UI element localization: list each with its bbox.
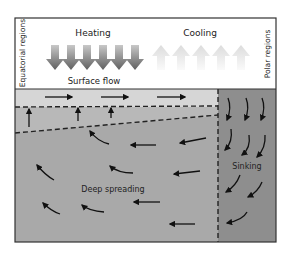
surface-band [15, 89, 218, 107]
sinking-label: Sinking [232, 162, 261, 171]
equatorial-regions-label: Equatorial regions [18, 19, 27, 87]
heating-label: Heating [75, 28, 110, 38]
ocean-circulation-diagram: Heating Cooling Surface flow Deep spread… [0, 0, 284, 255]
cooling-label: Cooling [183, 28, 217, 38]
deep-spreading-label: Deep spreading [81, 185, 144, 194]
polar-regions-label: Polar regions [263, 30, 272, 79]
surface-flow-label: Surface flow [68, 76, 121, 86]
